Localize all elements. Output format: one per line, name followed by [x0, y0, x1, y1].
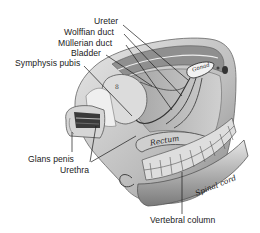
label-wolffian-duct: Wolffian duct — [64, 28, 114, 37]
label-vertebral-column: Vertebral column — [150, 216, 215, 225]
label-urethra: Urethra — [60, 166, 89, 175]
label-bladder: Bladder — [71, 49, 101, 58]
label-glans-penis: Glans penis — [28, 155, 74, 164]
label-mullerian-duct: Müllerian duct — [58, 39, 112, 48]
label-ureter: Ureter — [94, 17, 118, 26]
anatomy-diagram: 8 — [0, 0, 260, 233]
pelvis-illustration: 8 — [0, 0, 260, 233]
label-symphysis-pubis: Symphysis pubis — [15, 59, 80, 68]
svg-text:8: 8 — [115, 83, 119, 90]
